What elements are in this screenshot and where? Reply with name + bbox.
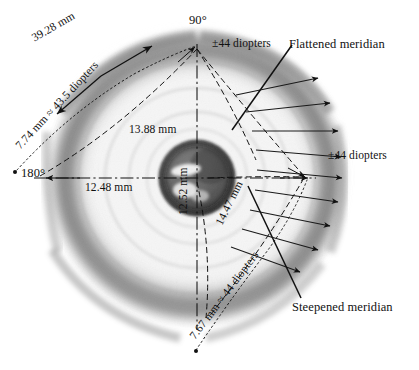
chord-right-upper — [197, 49, 304, 176]
label-axis-180: 180° — [21, 167, 45, 180]
leader-flattened — [232, 45, 292, 130]
callout-flattened-meridian: Flattened meridian — [289, 38, 385, 51]
leader-steepened — [248, 186, 301, 298]
chord-vertical-lower — [197, 182, 208, 318]
label-chord-13-88: 13.88 mm — [129, 124, 176, 136]
callout-steepened-meridian: Steepened meridian — [292, 301, 393, 314]
label-diopters-right: ±44 diopters — [328, 150, 387, 162]
label-chord-12-48: 12.48 mm — [85, 182, 132, 194]
chord-top-right — [197, 49, 256, 160]
label-axis-90: 90° — [189, 14, 207, 27]
label-chord-12-52: 12.52 mm — [178, 168, 190, 215]
chord-upper — [40, 49, 197, 176]
figure-canvas: 90° 180° 39.28 mm 7.74 mm ≈ 43.5 diopter… — [0, 0, 419, 370]
label-diopters-top: ±44 diopters — [212, 38, 271, 50]
